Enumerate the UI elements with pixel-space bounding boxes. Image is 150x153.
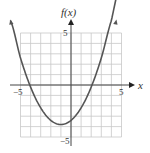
y-tick-min: −5 bbox=[60, 136, 70, 146]
y-axis-arrow-icon bbox=[68, 19, 74, 25]
x-axis-arrow-icon bbox=[129, 82, 135, 88]
curve-right-arrow-icon bbox=[113, 19, 117, 24]
x-tick-max: 5 bbox=[119, 87, 124, 97]
x-tick-min: −5 bbox=[13, 87, 23, 97]
parabola-chart: f(x) x −5 5 5 −5 bbox=[0, 0, 150, 153]
y-tick-max: 5 bbox=[63, 28, 68, 38]
curve-left-arrow-icon bbox=[9, 19, 13, 24]
x-axis-label: x bbox=[137, 79, 143, 91]
y-axis-label: f(x) bbox=[61, 6, 77, 19]
